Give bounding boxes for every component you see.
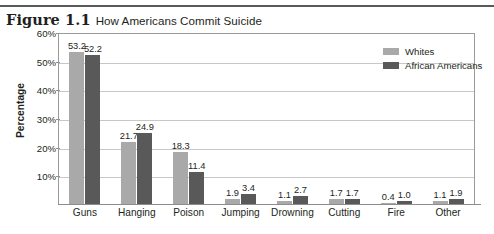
bar: 53.2	[69, 52, 84, 204]
figure-caption: Figure 1.1How Americans Commit Suicide	[6, 11, 262, 29]
legend-swatch	[383, 62, 399, 69]
bar: 1.9	[449, 199, 464, 204]
bar-value-label: 1.1	[434, 190, 447, 200]
bar-group: 1.71.7	[318, 34, 370, 204]
bar-value-label: 1.0	[398, 190, 411, 200]
bar-value-label: 0.4	[382, 192, 395, 202]
bar-value-label: 1.7	[330, 188, 343, 198]
x-axis-tick-label: Drowning	[267, 207, 319, 218]
x-axis-tick-label: Poison	[163, 207, 215, 218]
y-axis-tick-label: 20%	[37, 142, 56, 153]
bar: 1.9	[225, 199, 240, 204]
legend-item: Whites	[383, 46, 482, 57]
bar: 1.1	[433, 201, 448, 204]
bar-value-label: 21.7	[120, 131, 138, 141]
bar-value-label: 2.7	[294, 185, 307, 195]
bar-group: 53.252.2	[59, 34, 111, 204]
x-axis-tick-label: Cutting	[318, 207, 370, 218]
bar: 1.1	[277, 201, 292, 204]
bar-group: 1.93.4	[215, 34, 267, 204]
figure-number: Figure 1.1	[6, 11, 91, 28]
bar: 1.7	[329, 199, 344, 204]
bar-value-label: 1.9	[226, 188, 239, 198]
bar-group: 21.724.9	[111, 34, 163, 204]
bar: 1.0	[397, 201, 412, 204]
bar-value-label: 18.3	[172, 141, 190, 151]
page-title: How Americans Commit Suicide	[96, 14, 262, 27]
y-axis-tick-label: 10%	[37, 171, 56, 182]
x-axis-labels: GunsHangingPoisonJumpingDrowningCuttingF…	[59, 207, 474, 218]
legend-label: Whites	[405, 46, 434, 57]
bar: 3.4	[241, 194, 256, 204]
bar-value-label: 1.7	[346, 188, 359, 198]
bar-value-label: 1.9	[450, 188, 463, 198]
bar-value-label: 11.4	[188, 161, 205, 171]
bar: 1.7	[345, 199, 360, 204]
y-axis-tick-label: 40%	[37, 85, 56, 96]
y-axis-tick-label: 60%	[37, 28, 56, 39]
bar: 2.7	[293, 196, 308, 204]
bar-value-label: 24.9	[136, 122, 154, 132]
y-axis-tick-label: 50%	[37, 56, 56, 67]
y-axis: 60%50%40%30%20%10%	[0, 33, 56, 205]
y-axis-tick-label: 30%	[37, 114, 56, 125]
x-axis-tick-label: Other	[422, 207, 474, 218]
legend-item: African Americans	[383, 60, 482, 71]
title-rule	[0, 5, 494, 7]
legend-swatch	[383, 48, 399, 55]
legend-label: African Americans	[405, 60, 482, 71]
bar: 0.4	[381, 203, 396, 205]
x-axis-tick-label: Hanging	[111, 207, 163, 218]
bar: 18.3	[173, 152, 188, 204]
x-axis-tick-label: Guns	[59, 207, 111, 218]
bar: 52.2	[85, 55, 100, 204]
bar: 11.4	[189, 172, 204, 204]
figure-panel: Figure 1.1How Americans Commit Suicide P…	[0, 0, 494, 234]
chart-legend: WhitesAfrican Americans	[383, 46, 482, 74]
bar-group: 18.311.4	[163, 34, 215, 204]
bar: 21.7	[121, 142, 136, 204]
x-axis-tick-label: Jumping	[215, 207, 267, 218]
source-note	[30, 228, 470, 232]
bar-value-label: 3.4	[242, 183, 255, 193]
bar: 24.9	[137, 133, 152, 204]
bar-group: 1.12.7	[267, 34, 319, 204]
x-axis-line	[58, 204, 481, 205]
x-axis-tick-label: Fire	[370, 207, 422, 218]
bar-value-label: 1.1	[278, 190, 291, 200]
bar-value-label: 52.2	[84, 44, 102, 54]
